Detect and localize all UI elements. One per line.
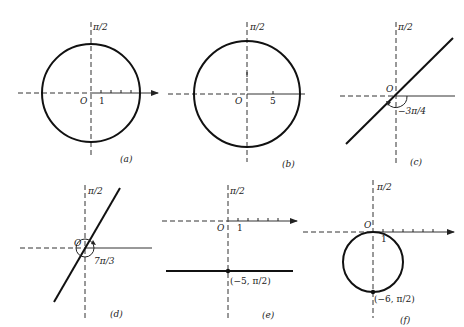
- point-label-f: (−6, π/2): [374, 294, 415, 304]
- pi-half-label-a: π/2: [92, 22, 108, 32]
- caption-d: (d): [110, 309, 123, 319]
- caption-b: (b): [282, 159, 295, 169]
- tick-label-f: 1: [381, 234, 387, 244]
- pi-half-label-d: π/2: [87, 186, 103, 196]
- pole-label-d: O: [74, 238, 82, 248]
- point-marker-e: [226, 269, 230, 273]
- panel-c: π/2 O −3π/4 (c): [340, 22, 455, 167]
- tick-label-a: 1: [99, 96, 105, 106]
- line-curve-c: [346, 38, 453, 144]
- pole-label-b: O: [235, 96, 243, 106]
- pi-half-label-c: π/2: [397, 22, 413, 32]
- tick-label-b: 5: [270, 96, 276, 106]
- caption-f: (f): [400, 315, 411, 325]
- caption-e: (e): [262, 310, 275, 320]
- pi-half-label-f: π/2: [376, 182, 392, 192]
- panel-b: π/2 O 5 (b): [168, 22, 305, 169]
- tick-label-e: 1: [237, 223, 243, 233]
- pole-label-a: O: [80, 96, 88, 106]
- panel-d: π/2 O 7π/3 (d): [20, 185, 152, 320]
- arc-arrowhead-d: [91, 240, 96, 245]
- pi-half-label-b: π/2: [249, 22, 265, 32]
- panel-e: π/2 O 1 (−5, π/2) (e): [162, 185, 297, 320]
- point-label-e: (−5, π/2): [230, 276, 271, 286]
- angle-label-d: 7π/3: [94, 256, 115, 266]
- caption-c: (c): [410, 157, 423, 167]
- pi-half-label-e: π/2: [229, 186, 245, 196]
- pole-label-f: O: [364, 220, 372, 230]
- panel-f: π/2 O 1 (−6, π/2) (f): [303, 180, 454, 325]
- caption-a: (a): [120, 154, 133, 164]
- polar-graphs-figure: π/2 O 1 (a) π/2 O 5 (b) π/2 O −3π/4 (c): [0, 0, 464, 327]
- panel-a: π/2 O 1 (a): [18, 22, 158, 164]
- pole-label-c: O: [386, 84, 394, 94]
- pole-label-e: O: [217, 223, 225, 233]
- line-curve-d: [54, 188, 120, 302]
- angle-label-c: −3π/4: [398, 106, 426, 116]
